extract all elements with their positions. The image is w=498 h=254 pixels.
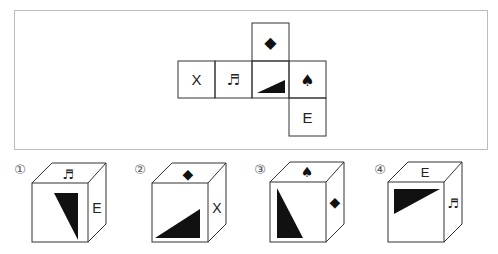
option-cube-2[interactable]: ◆ X [152,163,226,242]
cube-2-side-symbol: X [212,200,222,216]
option-cube-3[interactable]: ♠ ◆ [270,162,344,242]
option-label-1: ① [14,162,26,177]
net-symbol-spade: ♠ [300,71,314,90]
cube-1-side-symbol: E [92,200,101,216]
cube-4-side-symbol: ♬ [447,196,459,211]
net-symbol-diamond: ◆ [264,33,277,52]
cube-2-top-symbol: ◆ [183,166,194,182]
cube-3-side-symbol: ◆ [330,194,341,210]
cube-4-top-symbol: E [421,165,430,180]
net-symbol-x: X [191,71,201,88]
cube-2-triangle [155,209,200,238]
net-symbol-e: E [302,109,312,126]
cube-1-triangle [54,193,78,240]
cube-3-triangle [277,188,303,238]
diagram-canvas: X ♬ ♠ ◆ E ① ② ③ ④ ♬ E ◆ X [0,0,498,254]
option-label-2: ② [134,162,146,177]
option-label-4: ④ [374,162,386,177]
net-symbol-triangle [257,80,285,93]
option-cube-1[interactable]: ♬ E [32,163,106,242]
cube-4-triangle [394,189,440,214]
net-symbol-note: ♬ [227,71,240,89]
option-label-3: ③ [254,162,266,177]
cube-3-top-symbol: ♠ [301,164,314,180]
option-cube-4[interactable]: E ♬ [388,162,462,242]
cube-1-top-symbol: ♬ [62,167,74,182]
